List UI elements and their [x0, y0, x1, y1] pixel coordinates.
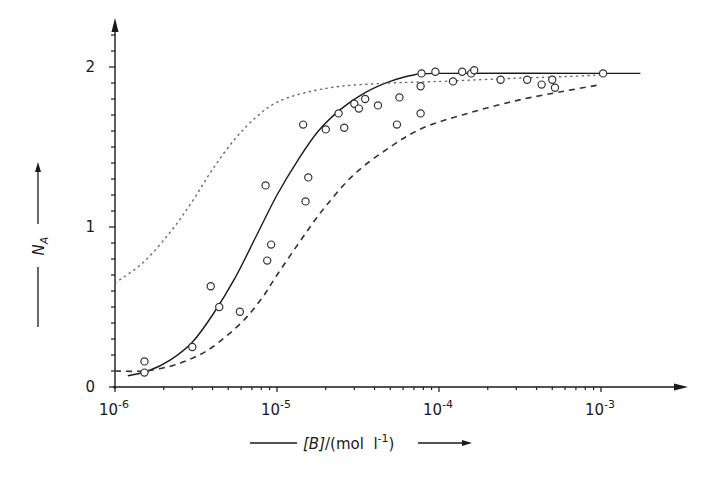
x-title-unit-close: )	[389, 435, 395, 453]
y-axis: 012	[85, 18, 118, 396]
data-point	[417, 83, 424, 90]
x-axis-title: [B]/(mol l-1)	[250, 432, 472, 453]
data-point	[449, 78, 456, 85]
solid-curve	[128, 73, 641, 376]
data-point	[262, 182, 269, 189]
x-tick-label: 10-4	[423, 398, 453, 419]
data-point	[362, 95, 369, 102]
data-point	[538, 81, 545, 88]
data-points	[141, 67, 607, 377]
data-point	[207, 283, 214, 290]
x-title-var: [B]	[303, 435, 325, 453]
data-point	[374, 102, 381, 109]
svg-text:[B]/(mol l-1): [B]/(mol l-1)	[303, 432, 394, 453]
data-point	[355, 105, 362, 112]
data-point	[497, 76, 504, 83]
y-tick-label: 0	[85, 378, 95, 396]
x-title-unit-exp: -1	[378, 432, 389, 445]
x-tick-label: 10-5	[261, 398, 291, 419]
arrow-icon	[35, 162, 41, 172]
data-point	[322, 126, 329, 133]
data-point	[471, 67, 478, 74]
y-title-var: N	[30, 244, 48, 255]
data-point	[268, 241, 275, 248]
dashed-curve	[115, 85, 601, 372]
data-point	[302, 198, 309, 205]
data-point	[418, 70, 425, 77]
data-point	[549, 76, 556, 83]
x-tick-label: 10-6	[99, 398, 129, 419]
data-point	[141, 358, 148, 365]
data-point	[300, 121, 307, 128]
arrow-up-icon	[112, 18, 119, 32]
curves	[115, 73, 640, 376]
data-point	[216, 303, 223, 310]
data-point	[524, 76, 531, 83]
arrow-right-icon	[674, 384, 688, 391]
data-point	[264, 257, 271, 264]
data-point	[599, 70, 606, 77]
data-point	[396, 94, 403, 101]
data-point	[341, 124, 348, 131]
data-point	[335, 110, 342, 117]
y-tick-label: 1	[85, 218, 95, 236]
arrow-icon	[462, 440, 472, 446]
data-point	[189, 343, 196, 350]
chart: 012 10-610-510-410-3 NA [B]/(mol l-1)	[0, 0, 715, 481]
data-point	[141, 369, 148, 376]
x-tick-label: 10-3	[585, 398, 615, 419]
data-point	[393, 121, 400, 128]
data-point	[236, 308, 243, 315]
y-title-sub: A	[38, 237, 51, 246]
data-point	[551, 84, 558, 91]
data-point	[305, 174, 312, 181]
x-title-unit: (mol l	[330, 435, 378, 453]
y-axis-title: NA	[30, 162, 51, 327]
y-tick-label: 2	[85, 58, 95, 76]
svg-text:NA: NA	[30, 237, 51, 256]
data-point	[432, 68, 439, 75]
x-axis: 10-610-510-410-3	[99, 384, 688, 420]
data-point	[459, 68, 466, 75]
data-point	[417, 110, 424, 117]
